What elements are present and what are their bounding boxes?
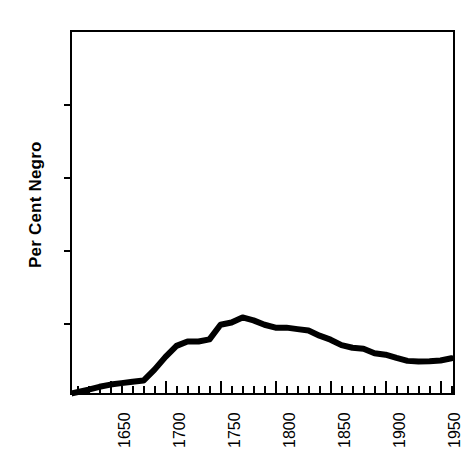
x-tick-1920 [407,386,409,393]
x-tick-1910 [396,386,398,393]
x-tick-1650 [110,381,112,393]
x-tick-1830 [308,386,310,393]
x-tick-1810 [286,386,288,393]
x-tick-1860 [341,386,343,393]
x-tick-1630 [88,386,90,393]
y-axis-group: Per Cent Negro 020406080100 [0,0,70,462]
data-line-svg [72,32,457,397]
x-tick-1620 [77,386,79,393]
x-tick-1670 [132,386,134,393]
x-tick-label-1800: 1800 [282,412,298,448]
x-tick-label-1650: 1650 [117,412,133,448]
x-tick-1820 [297,386,299,393]
x-tick-1740 [209,386,211,393]
x-tick-label-1950: 1950 [447,412,463,448]
x-tick-1640 [99,386,101,393]
x-tick-1790 [264,386,266,393]
x-tick-1890 [374,386,376,393]
x-tick-1660 [121,386,123,393]
x-tick-1960 [451,386,453,393]
x-tick-1880 [363,386,365,393]
x-tick-1900 [385,381,387,393]
x-tick-1800 [275,381,277,393]
x-tick-1720 [187,386,189,393]
x-tick-1840 [319,386,321,393]
x-tick-1780 [253,386,255,393]
x-tick-1680 [143,386,145,393]
x-tick-1750 [220,381,222,393]
x-tick-1770 [242,386,244,393]
x-tick-label-1700: 1700 [172,412,188,448]
y-tick-80 [64,104,72,106]
x-tick-1710 [176,386,178,393]
y-tick-20 [64,323,72,325]
x-tick-1940 [429,386,431,393]
y-tick-40 [64,250,72,252]
x-tick-1690 [154,386,156,393]
x-tick-label-1750: 1750 [227,412,243,448]
y-tick-60 [64,177,72,179]
x-tick-1850 [330,381,332,393]
x-tick-1950 [440,381,442,393]
plot-area [70,30,455,395]
x-tick-1930 [418,386,420,393]
x-tick-label-1900: 1900 [392,412,408,448]
x-tick-1730 [198,386,200,393]
x-tick-1700 [165,381,167,393]
chart-container: Per Cent Negro 020406080100 165017001750… [0,0,475,462]
series-line-per-cent-negro [72,317,452,393]
x-tick-1870 [352,386,354,393]
x-tick-label-1850: 1850 [337,412,353,448]
x-tick-1760 [231,386,233,393]
y-axis-title: Per Cent Negro [26,68,50,268]
